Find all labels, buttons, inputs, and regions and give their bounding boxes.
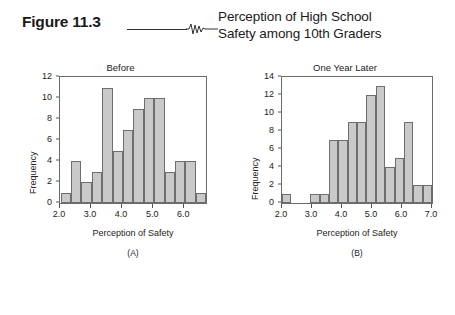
- y-tick-label: 12: [42, 71, 52, 81]
- x-tick-label: 2.0: [53, 209, 66, 219]
- x-tick-label: 4.0: [115, 209, 128, 219]
- x-tick-label: 4.0: [335, 209, 348, 219]
- plot-frame-a: [59, 76, 207, 204]
- bar: [92, 172, 102, 204]
- bar: [123, 130, 133, 204]
- x-tick-mark: [311, 204, 312, 208]
- bar: [376, 86, 385, 203]
- chart-panel-before: Before Frequency 024681012 2.03.04.05.06…: [18, 62, 223, 76]
- x-tick-mark: [401, 204, 402, 208]
- y-tick-label: 2: [47, 176, 52, 186]
- y-tick-label: 8: [269, 125, 274, 135]
- x-tick-label: 5.0: [146, 209, 159, 219]
- bar: [165, 172, 175, 204]
- y-tick-label: 10: [42, 92, 52, 102]
- bar: [348, 122, 357, 203]
- bar: [154, 98, 164, 203]
- horizontal-rule-icon: [127, 29, 187, 30]
- x-tick-mark: [152, 204, 153, 208]
- bar: [395, 158, 404, 203]
- x-tick-label: 7.0: [425, 209, 438, 219]
- panel-letter-b: (B): [281, 248, 433, 258]
- x-tick-mark: [281, 204, 282, 208]
- y-tick-label: 12: [264, 89, 274, 99]
- x-tick-label: 6.0: [395, 209, 408, 219]
- bar-series-b: [282, 77, 432, 203]
- y-tick-label: 6: [47, 134, 52, 144]
- x-tick-label: 5.0: [365, 209, 378, 219]
- chart-panel-one-year-later: One Year Later Frequency 02468101214 2.0…: [240, 62, 450, 76]
- y-tick-label: 4: [47, 155, 52, 165]
- y-tick-label: 6: [269, 143, 274, 153]
- bar: [282, 194, 291, 203]
- bar: [404, 122, 413, 203]
- bar: [133, 109, 143, 204]
- bar: [196, 193, 206, 204]
- bar: [338, 140, 347, 203]
- bar: [329, 140, 338, 203]
- y-axis-label-b: Frequency: [250, 157, 260, 200]
- bar: [366, 95, 375, 203]
- bar: [61, 193, 71, 204]
- x-axis-label-b: Perception of Safety: [281, 228, 433, 238]
- bar: [357, 122, 366, 203]
- x-tick-mark: [341, 204, 342, 208]
- bar: [113, 151, 123, 204]
- x-tick-mark: [59, 204, 60, 208]
- y-tick-label: 0: [47, 197, 52, 207]
- bar: [423, 185, 432, 203]
- bar: [185, 161, 195, 203]
- bar: [71, 161, 81, 203]
- y-tick-label: 8: [47, 113, 52, 123]
- y-axis-label-a: Frequency: [28, 151, 38, 194]
- y-tick-label: 0: [269, 197, 274, 207]
- y-tick-label: 14: [264, 71, 274, 81]
- x-tick-mark: [121, 204, 122, 208]
- bar: [320, 194, 329, 203]
- bar: [144, 98, 154, 203]
- bar: [175, 161, 185, 203]
- x-tick-label: 2.0: [275, 209, 288, 219]
- figure-label: Figure 11.3: [22, 13, 101, 31]
- plot-frame-b: [281, 76, 433, 204]
- figure-title: Perception of High School Safety among 1…: [218, 8, 381, 42]
- x-tick-mark: [431, 204, 432, 208]
- figure-header: Figure 11.3 Perception of High School Sa…: [0, 8, 455, 56]
- x-axis-label-a: Perception of Safety: [59, 228, 207, 238]
- bar: [81, 182, 91, 203]
- y-tick-label: 10: [264, 107, 274, 117]
- bar: [102, 88, 112, 204]
- x-tick-label: 3.0: [84, 209, 97, 219]
- bar: [310, 194, 319, 203]
- x-tick-mark: [90, 204, 91, 208]
- squiggle-line-icon: [186, 21, 218, 37]
- bar: [385, 167, 394, 203]
- x-tick-mark: [183, 204, 184, 208]
- x-tick-mark: [371, 204, 372, 208]
- bar-series-a: [60, 77, 206, 203]
- x-tick-label: 3.0: [305, 209, 318, 219]
- y-tick-label: 4: [269, 161, 274, 171]
- bar: [413, 185, 422, 203]
- panel-letter-a: (A): [59, 248, 207, 258]
- x-tick-label: 6.0: [177, 209, 190, 219]
- y-tick-label: 2: [269, 179, 274, 189]
